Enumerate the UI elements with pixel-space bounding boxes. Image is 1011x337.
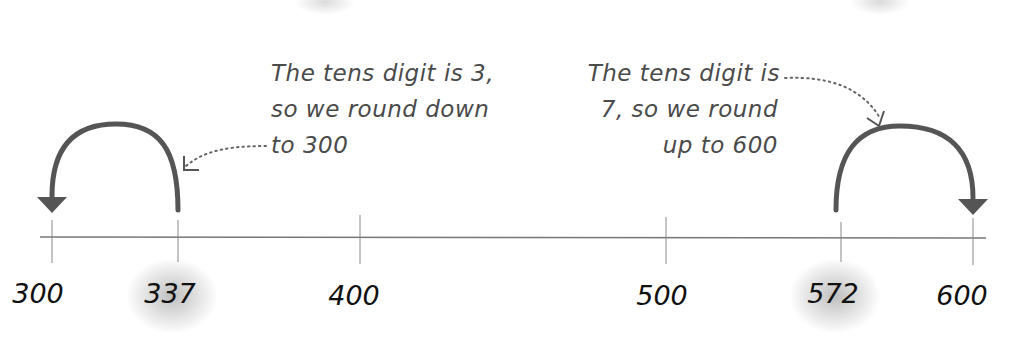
tick-label-337: 337 [144,279,196,309]
dotted-pointer-left [186,146,266,166]
annotation-round-down: The tens digit is 3, so we round down to… [271,55,494,163]
arrowhead-down-left-icon [37,197,67,213]
pointer-arrowhead-right-icon [867,111,884,126]
annotation-line: up to 600 [575,127,780,163]
annotation-line: to 300 [271,127,494,163]
round-up-arc-arrow [836,126,973,210]
tick-label-500: 500 [636,281,688,311]
round-down-arc-arrow [52,124,178,210]
tick-label-600: 600 [936,281,988,311]
annotation-line: so we round down [271,91,494,127]
rounding-number-line-diagram: The tens digit is 3, so we round down to… [0,0,1011,337]
annotation-round-up: The tens digit is 7, so we round up to 6… [575,55,780,163]
annotation-line: The tens digit is 3, [271,55,494,91]
dotted-pointer-right [785,78,880,118]
tick-label-300: 300 [12,279,64,309]
arrowhead-down-right-icon [958,199,988,215]
annotation-line: 7, so we round [575,91,780,127]
tick-label-400: 400 [328,281,380,311]
tick-label-572: 572 [807,279,859,309]
number-line-axis [40,237,986,238]
tick-marks [52,215,973,265]
annotation-line: The tens digit is [575,55,780,91]
